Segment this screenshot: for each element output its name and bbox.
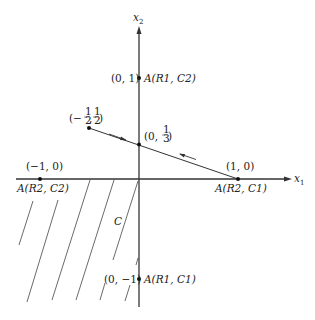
point-neg1-0-coord: (−1, 0) (26, 160, 63, 172)
point-neg1-0 (38, 177, 42, 181)
point-0-neg1-name: A(R1, C1) (143, 273, 196, 285)
hatch-line (19, 201, 33, 245)
point-0-1-name: A(R1, C2) (143, 72, 196, 84)
point-0-third (137, 143, 141, 147)
hatch-line (125, 285, 130, 301)
svg-text:(0,: (0, (144, 130, 158, 142)
diagram-svg: x1 x2 (0, 1) A(R1, C2) (0, −1) A(R1, C1)… (0, 0, 315, 320)
hatch-line (27, 200, 58, 302)
point-0-third-coord: (0, 1 3 ) (144, 123, 172, 144)
svg-text:): ) (99, 112, 103, 124)
x2-axis-arrowhead-icon (137, 26, 142, 34)
arrow-left-icon (179, 154, 196, 160)
point-1-0 (236, 177, 240, 181)
point-0-1-coord: (0, 1) (111, 72, 139, 84)
arrow-right-icon (109, 134, 127, 140)
point-1-0-coord: (1, 0) (226, 160, 254, 172)
point-1-0-name: A(R2, C1) (214, 182, 267, 194)
point-neg1-0-name: A(R2, C2) (16, 182, 69, 194)
point-neg-half-half-coord: (− 1 2 , 1 2 ) (69, 105, 103, 126)
point-0-neg1-coord: (0, −1) (104, 273, 141, 285)
svg-text:(−: (− (69, 112, 82, 124)
hatch-line (100, 283, 105, 300)
svg-text:,: , (89, 112, 92, 124)
diagram-canvas: x1 x2 (0, 1) A(R1, C2) (0, −1) A(R1, C1)… (0, 0, 315, 320)
x1-axis-arrowhead-icon (284, 177, 292, 182)
x1-axis-label: x1 (294, 172, 304, 187)
region-c-label: C (114, 215, 122, 227)
hatch-line (136, 258, 138, 265)
x2-axis-label: x2 (133, 11, 143, 26)
point-neg-half-half (87, 126, 91, 130)
hatch-line (52, 180, 90, 300)
svg-text:): ) (168, 130, 172, 142)
